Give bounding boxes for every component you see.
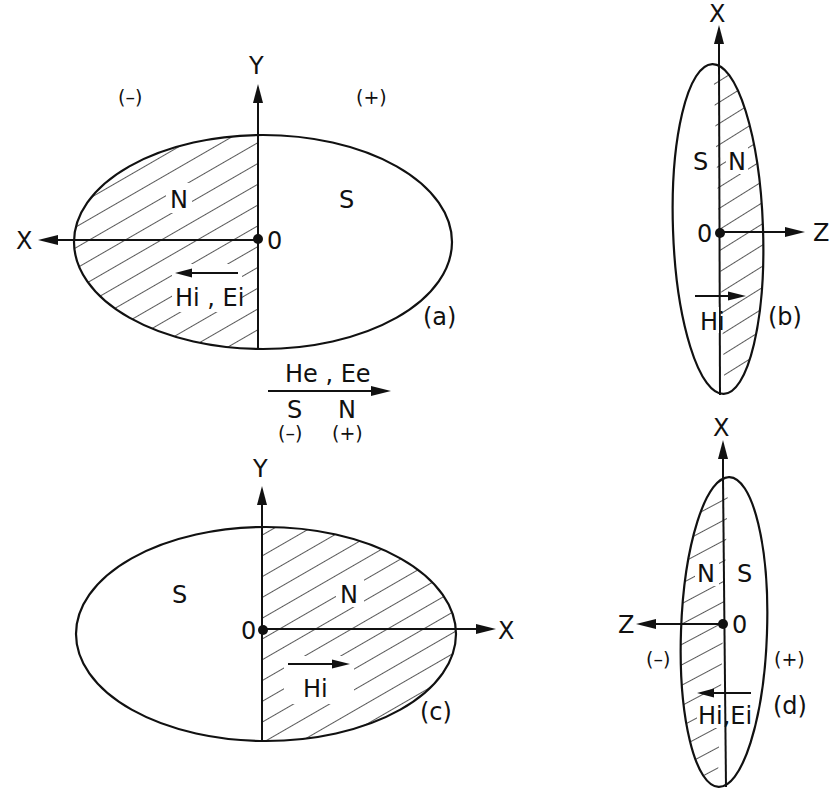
- panel-d-z-label: Z: [618, 611, 634, 639]
- panel-c: Y X 0 S N Hi (c): [76, 455, 514, 741]
- panel-b-region-s: S: [693, 148, 708, 176]
- panel-b-z-label: Z: [813, 219, 829, 247]
- external-field-sign-left: (–): [278, 422, 302, 444]
- panel-c-origin-label: 0: [241, 617, 256, 645]
- panel-c-x-arrowhead-icon: [476, 624, 496, 634]
- panel-d-x-label: X: [713, 414, 729, 442]
- external-field-legend: He , Ee S N (–) (+): [268, 360, 391, 444]
- panel-c-y-arrowhead-icon: [257, 486, 267, 505]
- panel-a-x-label: X: [16, 227, 32, 255]
- figure-canvas: Y X 0 N S (–) (+) Hi , Ei (a) He , Ee S …: [0, 0, 839, 790]
- panel-b-origin-dot: [715, 228, 725, 238]
- panel-c-region-n: N: [340, 581, 358, 609]
- panel-a: Y X 0 N S (–) (+) Hi , Ei (a): [16, 52, 456, 349]
- panel-d-z-arrowhead-icon: [636, 619, 656, 629]
- panel-b-tag: (b): [768, 303, 802, 331]
- diagram-svg: Y X 0 N S (–) (+) Hi , Ei (a) He , Ee S …: [0, 0, 839, 790]
- panel-d-region-n: N: [697, 560, 715, 588]
- panel-a-y-arrowhead-icon: [253, 84, 263, 103]
- panel-d-sign-left: (–): [646, 648, 670, 670]
- panel-a-region-s: S: [339, 186, 354, 214]
- panel-b-internal-field-label: Hi: [700, 308, 725, 336]
- panel-c-internal-field-label: Hi: [303, 675, 328, 703]
- panel-d-region-s: S: [737, 560, 752, 588]
- panel-d-origin-dot: [718, 619, 728, 629]
- panel-a-x-arrowhead-icon: [38, 235, 58, 245]
- panel-a-y-label: Y: [248, 52, 264, 80]
- external-field-arrowhead-icon: [371, 386, 391, 396]
- panel-b-origin-label: 0: [697, 220, 712, 248]
- panel-c-y-label: Y: [252, 455, 268, 483]
- panel-a-hatched-half: [74, 135, 452, 349]
- panel-a-internal-field-label: Hi , Ei: [175, 284, 244, 312]
- panel-d-x-arrowhead-icon: [718, 440, 728, 459]
- panel-d: X Z 0 N S (–) (+) Hi,Ei (d): [618, 414, 807, 788]
- external-field-pole-n: N: [338, 396, 356, 424]
- panel-a-sign-right: (+): [356, 86, 387, 108]
- panel-a-origin-dot: [253, 234, 263, 244]
- panel-b: X Z 0 S N Hi (b): [667, 0, 829, 395]
- external-field-pole-s: S: [287, 396, 302, 424]
- panel-b-x-label: X: [709, 0, 725, 28]
- panel-c-x-label: X: [498, 617, 514, 645]
- panel-a-sign-left: (–): [118, 86, 142, 108]
- panel-a-tag: (a): [423, 303, 456, 331]
- panel-b-region-n: N: [728, 148, 746, 176]
- panel-b-z-arrowhead-icon: [785, 227, 805, 237]
- external-field-sign-right: (+): [332, 422, 363, 444]
- panel-c-region-s: S: [172, 581, 187, 609]
- panel-d-tag: (d): [773, 692, 807, 720]
- panel-d-sign-right: (+): [774, 648, 805, 670]
- panel-d-origin-label: 0: [732, 611, 747, 639]
- panel-d-internal-field-label: Hi,Ei: [698, 702, 752, 730]
- panel-c-origin-dot: [258, 625, 268, 635]
- panel-a-region-n: N: [170, 186, 188, 214]
- panel-a-origin-label: 0: [267, 227, 282, 255]
- external-field-label: He , Ee: [285, 360, 371, 388]
- panel-c-tag: (c): [420, 698, 452, 726]
